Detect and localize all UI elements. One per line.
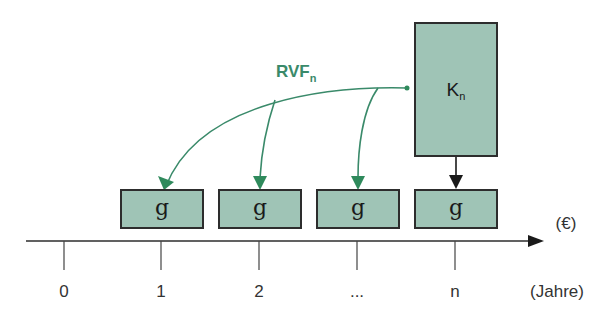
- tick-label-2: 2: [254, 282, 263, 302]
- payment-label: g: [253, 195, 267, 220]
- rvf-label: RVFn: [276, 62, 316, 82]
- time-label: (Jahre): [530, 282, 584, 302]
- tick-label-1: 1: [156, 282, 165, 302]
- capital-box-main: K: [447, 79, 460, 101]
- rvf-start-dot: [405, 86, 410, 91]
- tick-label-0: 0: [59, 282, 68, 302]
- tick-label-n: n: [450, 282, 459, 302]
- rvf-curve-branch-2: [260, 100, 275, 178]
- rvf-label-sub: n: [310, 72, 317, 84]
- payment-box-3: g: [316, 189, 400, 229]
- capital-box-sub: n: [459, 90, 465, 102]
- tick-label-3: ...: [350, 282, 364, 302]
- unit-label: (€): [556, 214, 577, 234]
- payment-box-2: g: [218, 189, 302, 229]
- arrowhead-1: [158, 176, 174, 190]
- capital-arrowhead: [449, 175, 463, 189]
- diagram-canvas: [0, 0, 603, 316]
- payment-box-1: g: [120, 189, 204, 229]
- payment-label: g: [155, 195, 169, 220]
- capital-box: Kn: [414, 22, 498, 157]
- arrowhead-2: [253, 176, 267, 190]
- payment-label: g: [351, 195, 365, 220]
- rvf-label-main: RVF: [276, 62, 310, 81]
- time-axis-arrowhead: [528, 235, 544, 247]
- payment-label: g: [449, 195, 463, 220]
- rvf-curve-branch-3: [358, 88, 378, 178]
- payment-box-n: g: [414, 189, 498, 229]
- arrowhead-3: [351, 176, 365, 190]
